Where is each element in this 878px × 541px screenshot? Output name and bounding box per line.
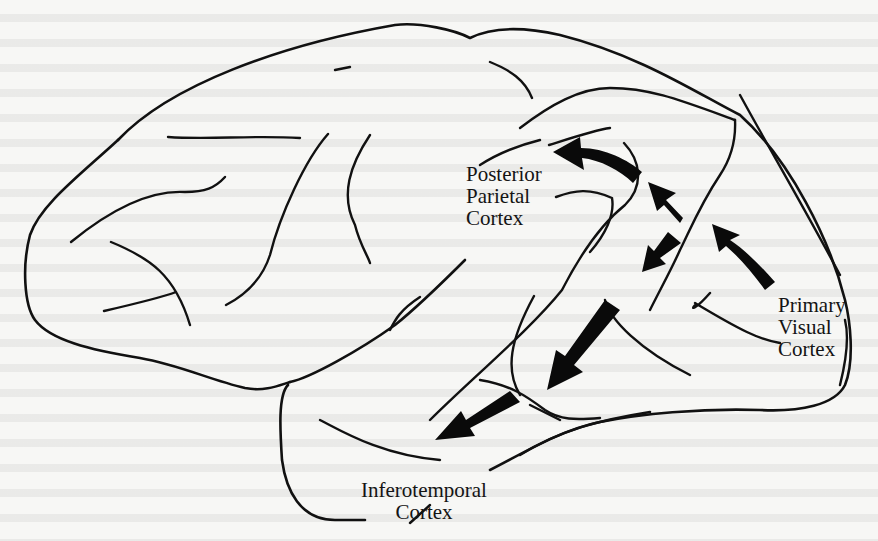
sulcus-temporal	[605, 293, 780, 375]
brain-diagram	[0, 0, 878, 541]
label-line: Visual	[778, 316, 846, 338]
label-line: Inferotemporal	[339, 479, 509, 501]
sulcus-frontal-3	[71, 177, 225, 242]
arrow-ventral-2	[547, 300, 620, 390]
arrow-dorsal-2	[648, 182, 683, 223]
label-line: Primary	[778, 294, 846, 316]
label-line: Cortex	[778, 338, 846, 360]
sulcus-lunate	[650, 120, 735, 310]
arrow-dorsal-3	[712, 224, 775, 290]
label-line: Cortex	[339, 501, 509, 523]
sulcus-central	[226, 134, 328, 305]
arrow-ventral-1	[642, 232, 681, 272]
label-line: Cortex	[466, 207, 542, 229]
arrow-dorsal-1	[553, 137, 642, 183]
sulcus-parietal-1	[490, 62, 532, 98]
label-line: Parietal	[466, 185, 542, 207]
sulcus-sylvian	[320, 297, 440, 460]
label-posterior-parietal-cortex: Posterior Parietal Cortex	[466, 163, 542, 229]
temporal-lobe-outline	[290, 260, 465, 382]
label-line: Posterior	[466, 163, 542, 185]
sulcus-frontal-1	[335, 67, 350, 70]
sulcus-arcuate	[104, 242, 190, 325]
sulcus-ips-front	[348, 135, 370, 263]
arrow-ventral-3	[435, 391, 520, 440]
label-primary-visual-cortex: Primary Visual Cortex	[778, 294, 846, 360]
brain-outline	[118, 24, 851, 470]
frontal-lobe-outline	[25, 140, 290, 389]
sulcus-frontal-2	[168, 137, 300, 138]
label-inferotemporal-cortex: Inferotemporal Cortex	[339, 479, 509, 523]
